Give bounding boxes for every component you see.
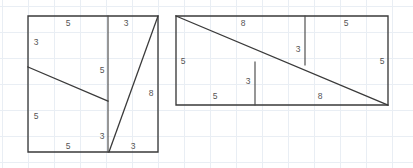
dim-label-right-inner-left: 3: [246, 76, 251, 86]
dim-label-left-mid-lower: 3: [100, 131, 105, 141]
diagram-canvas: 5 3 3 5 8 5 3 5 3 8 5 5 3 5 3 5 8: [0, 0, 413, 168]
dim-label-left-top-left: 5: [66, 18, 71, 28]
dim-label-right-bottom-right: 8: [318, 91, 323, 101]
missing-square-puzzle-figure: 5 3 3 5 8 5 3 5 3 8 5 5 3 5 3 5 8: [0, 0, 413, 168]
dim-label-right-bottom-left: 5: [213, 91, 218, 101]
right-long-diagonal: [176, 16, 388, 105]
right-rectangle-assembly: 8 5 5 3 5 3 5 8: [176, 16, 388, 105]
dim-label-left-top-right: 3: [124, 18, 129, 28]
dim-label-right-inner-right: 3: [296, 44, 301, 54]
dim-label-left-right-side: 8: [149, 88, 154, 98]
dim-label-left-bottom-right: 3: [131, 141, 136, 151]
dim-label-left-bottom-left: 5: [66, 141, 71, 151]
dim-label-right-top-right: 5: [344, 18, 349, 28]
dim-label-right-top-left: 8: [241, 18, 246, 28]
dim-label-left-left-upper: 3: [34, 37, 39, 47]
dim-label-right-right-side: 5: [380, 56, 385, 66]
dim-label-left-mid-upper: 5: [100, 65, 105, 75]
dim-label-left-left-lower: 5: [34, 111, 39, 121]
graph-paper-grid: [0, 0, 413, 168]
dim-label-right-left-side: 5: [181, 56, 186, 66]
